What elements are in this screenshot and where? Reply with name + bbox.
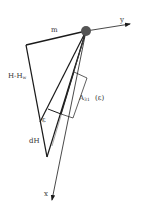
label-area: A31 (ε) (79, 95, 104, 103)
label-h-hw-main: H-H (8, 72, 23, 80)
label-m: m (51, 27, 58, 34)
label-epsilon: ε (42, 117, 46, 124)
label-y: y (120, 17, 124, 24)
label-area-arg: (ε) (95, 94, 104, 102)
label-h-hw: H-Hw (8, 73, 26, 81)
diagram-canvas: y x m H-Hw A31 (ε) ε dH (0, 0, 143, 207)
x-axis-line (52, 31, 86, 200)
diagram-svg (0, 0, 143, 207)
origin-dot (81, 26, 91, 36)
y-axis-line (86, 24, 130, 31)
label-dh: dH (29, 138, 40, 145)
slab-line (48, 109, 61, 114)
label-x: x (44, 191, 48, 198)
label-area-sub: 31 (84, 97, 90, 102)
label-h-hw-sub: w (23, 75, 27, 80)
